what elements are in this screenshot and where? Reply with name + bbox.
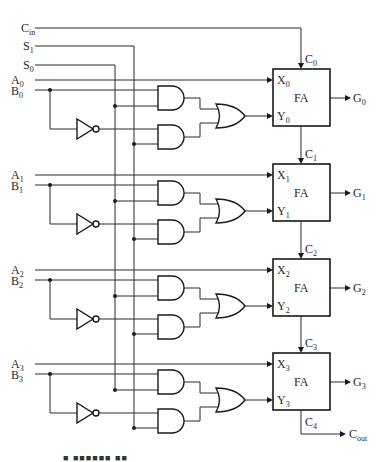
svg-text:C3: C3 (305, 336, 317, 352)
svg-text:FA: FA (294, 281, 309, 295)
svg-text:FA: FA (294, 186, 309, 200)
svg-text:FA: FA (294, 375, 309, 389)
svg-text:G2: G2 (353, 281, 366, 297)
svg-text:C0: C0 (305, 52, 317, 68)
svg-text:G3: G3 (353, 375, 366, 391)
or-gate (216, 104, 245, 128)
svg-text:G0: G0 (353, 91, 366, 107)
svg-text:C1: C1 (305, 147, 317, 163)
cin-label: Cin (21, 21, 35, 37)
svg-text:C4: C4 (305, 415, 317, 431)
and-gate-bottom (158, 125, 184, 149)
s1-label: S1 (23, 39, 34, 55)
svg-text:G1: G1 (353, 186, 366, 202)
not-bubble (93, 126, 99, 132)
and-gate-top (158, 86, 184, 110)
svg-text:C2: C2 (305, 242, 317, 258)
svg-text:FA: FA (294, 91, 309, 105)
arithmetic-circuit-diagram: Cin S1 S0 (0, 0, 387, 462)
input-labels: Cin S1 S0 (21, 21, 35, 74)
not-gate (77, 119, 93, 139)
s0-label: S0 (23, 58, 34, 74)
figure-caption: ■ ■■■■■■ ■■ (63, 453, 128, 462)
svg-text:Cout: Cout (349, 427, 368, 443)
stage-0 (35, 69, 351, 149)
